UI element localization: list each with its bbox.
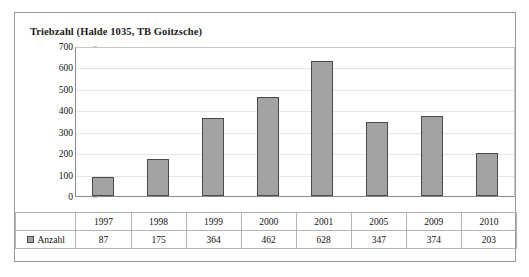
y-axis-tick-label: 500 [59, 85, 73, 95]
table-row-years: 19971998199920002001200520092010 [16, 213, 517, 231]
table-cell-value: 347 [351, 231, 406, 249]
table-cell-value: 87 [76, 231, 131, 249]
table-cell-value: 175 [131, 231, 186, 249]
table-cell-value: 374 [406, 231, 461, 249]
bar [366, 122, 388, 196]
table-cell-value: 203 [461, 231, 516, 249]
bar-series [76, 48, 514, 196]
chart-frame: Triebzahl (Halde 1035, TB Goitzsche) 010… [14, 12, 516, 262]
y-axis-tick-label: 600 [59, 63, 73, 73]
table-corner-spacer [16, 213, 76, 231]
bar-slot [76, 48, 131, 196]
table-cell-year: 2010 [461, 213, 516, 231]
bar [147, 159, 169, 197]
table-row-values: Anzahl87175364462628347374203 [16, 231, 517, 249]
bar [257, 97, 279, 196]
y-axis-tick-label: 700 [59, 42, 73, 52]
data-table-region: 19971998199920002001200520092010 Anzahl8… [15, 212, 517, 249]
y-axis-tick-label: 300 [59, 128, 73, 138]
table-cell-year: 2009 [406, 213, 461, 231]
y-axis-tick-label: 400 [59, 106, 73, 116]
data-table: 19971998199920002001200520092010 Anzahl8… [15, 212, 517, 249]
y-axis: 0100200300400500600700 [37, 47, 73, 197]
bar-slot [240, 48, 295, 196]
bar [476, 153, 498, 197]
legend-swatch-icon [27, 236, 34, 243]
bar [421, 116, 443, 196]
table-cell-value: 628 [296, 231, 351, 249]
table-cell-value: 364 [186, 231, 241, 249]
plot-region: 0100200300400500600700 [15, 47, 517, 212]
bar-slot [295, 48, 350, 196]
y-axis-tick-label: 0 [68, 192, 73, 202]
bar-slot [350, 48, 405, 196]
table-cell-year: 2001 [296, 213, 351, 231]
table-cell-year: 1997 [76, 213, 131, 231]
bar-slot [186, 48, 241, 196]
bar [202, 118, 224, 196]
legend-label: Anzahl [38, 235, 65, 245]
bar [311, 61, 333, 196]
plot-area [75, 47, 515, 197]
table-cell-value: 462 [241, 231, 296, 249]
bar-slot [459, 48, 514, 196]
table-cell-year: 2005 [351, 213, 406, 231]
bar-slot [131, 48, 186, 196]
y-axis-tick-label: 200 [59, 149, 73, 159]
table-cell-year: 2000 [241, 213, 296, 231]
legend-cell: Anzahl [16, 231, 76, 249]
chart-title: Triebzahl (Halde 1035, TB Goitzsche) [30, 26, 202, 37]
bar-slot [405, 48, 460, 196]
table-cell-year: 1998 [131, 213, 186, 231]
y-axis-tick-label: 100 [59, 171, 73, 181]
bar [92, 177, 114, 196]
table-cell-year: 1999 [186, 213, 241, 231]
